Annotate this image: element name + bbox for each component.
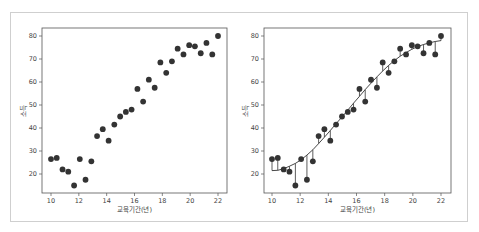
y-tick-label: 70 [29,55,37,63]
data-point [292,183,298,189]
data-point [327,138,333,144]
data-point [192,43,198,49]
data-point [83,177,89,183]
data-point [163,70,169,76]
y-tick-label: 20 [251,170,259,178]
data-point [157,60,163,66]
x-tick-label: 20 [409,197,417,205]
data-point [304,177,310,183]
x-tick-label: 14 [103,197,111,205]
data-point [321,126,327,132]
data-point [310,158,316,164]
data-point [374,85,380,91]
data-point [65,169,71,175]
data-point [209,52,215,58]
data-point [152,85,158,91]
y-axis-label: 소득 [242,105,250,117]
data-point [117,114,123,120]
data-point [345,109,351,115]
data-point [94,133,100,139]
data-point [198,50,204,56]
y-tick-label: 60 [29,78,37,86]
data-point [380,60,386,66]
data-point [339,114,345,120]
data-point [438,33,444,39]
data-point [351,107,357,113]
data-point [397,46,403,52]
data-point [298,156,304,162]
data-point [357,86,363,92]
fitted-curve [272,41,441,171]
x-tick-label: 16 [352,197,360,205]
y-tick-label: 30 [251,147,259,155]
data-point [391,58,397,64]
data-point [175,46,181,52]
scatter-plot-raw: 1012141618202220304050607080교육기간(년)소득 [20,28,227,214]
data-point [111,122,117,128]
data-point [71,183,77,189]
data-point [48,156,54,162]
data-point [77,156,83,162]
data-point [362,99,368,105]
data-point [135,86,141,92]
x-tick-label: 12 [75,197,83,205]
y-tick-label: 20 [29,170,37,178]
data-point [386,70,392,76]
x-tick-label: 12 [296,197,304,205]
data-point [204,40,210,46]
y-tick-label: 40 [251,124,259,132]
x-tick-label: 16 [130,197,138,205]
y-tick-label: 80 [29,32,37,40]
scatter-plot-fitted: 1012141618202220304050607080교육기간(년)소득 [242,28,451,214]
y-axis-label: 소득 [20,105,28,117]
data-point [88,158,94,164]
data-point [287,169,293,175]
y-tick-label: 30 [29,147,37,155]
data-point [368,77,374,83]
data-point [54,155,60,161]
data-point [426,40,432,46]
x-tick-label: 10 [47,197,55,205]
data-point [409,42,415,48]
data-point [421,50,427,56]
data-point [169,58,175,64]
data-point [140,99,146,105]
y-tick-label: 60 [251,78,259,86]
data-point [415,43,421,49]
y-tick-label: 50 [251,101,259,109]
data-point [269,156,275,162]
x-tick-label: 22 [214,197,222,205]
x-tick-label: 20 [186,197,194,205]
y-tick-label: 40 [29,124,37,132]
data-point [106,138,112,144]
x-tick-label: 14 [324,197,332,205]
data-point [432,52,438,58]
x-tick-label: 18 [381,197,389,205]
data-point [60,167,66,173]
data-point [275,155,281,161]
data-point [146,77,152,83]
x-tick-label: 22 [437,197,445,205]
x-tick-label: 18 [158,197,166,205]
data-point [333,122,339,128]
data-point [281,167,287,173]
data-point [215,33,221,39]
data-point [123,109,129,115]
data-point [403,52,409,58]
data-point [100,126,106,132]
chart-figure: 1012141618202220304050607080교육기간(년)소득 10… [0,0,479,232]
y-tick-label: 50 [29,101,37,109]
data-point [129,107,135,113]
data-point [181,52,187,58]
y-tick-label: 70 [251,55,259,63]
x-tick-label: 10 [268,197,276,205]
data-point [186,42,192,48]
data-point [316,133,322,139]
y-tick-label: 80 [251,32,259,40]
x-axis-label: 교육기간(년) [340,205,375,214]
x-axis-label: 교육기간(년) [117,205,152,214]
